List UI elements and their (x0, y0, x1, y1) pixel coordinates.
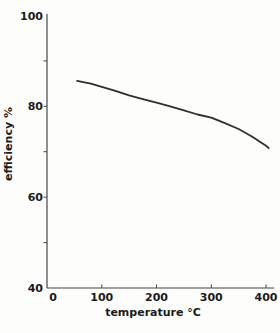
y-tick-label: 40 (28, 282, 44, 295)
efficiency-curve (77, 81, 269, 148)
y-tick-label: 100 (20, 10, 43, 23)
x-tick-label: 300 (200, 291, 223, 304)
y-tick-label: 80 (28, 100, 44, 113)
plot-svg: 0100200300400406080100 efficiency % temp… (0, 0, 280, 333)
efficiency-line (77, 81, 269, 148)
x-tick-label: 0 (49, 291, 57, 304)
tick-marks (44, 61, 267, 288)
chart-figure: 0100200300400406080100 efficiency % temp… (0, 0, 280, 333)
x-axis-title: temperature °C (105, 306, 201, 319)
x-tick-label: 400 (255, 291, 278, 304)
y-tick-label: 60 (28, 191, 44, 204)
y-axis-title: efficiency % (2, 107, 15, 181)
tick-labels: 0100200300400406080100 (20, 10, 278, 304)
x-tick-label: 100 (90, 291, 113, 304)
axes (47, 14, 274, 288)
x-tick-label: 200 (145, 291, 168, 304)
